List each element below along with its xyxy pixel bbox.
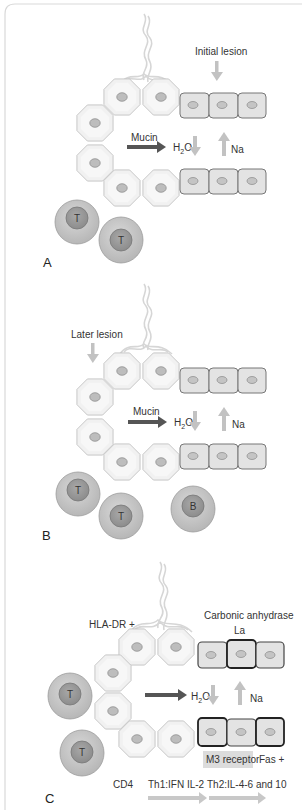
t-lymphocyte: T — [55, 200, 99, 244]
svg-text:T: T — [74, 213, 80, 224]
sjogren-pathogenesis-figure: Initial lesion Mucin H2O Na T — [0, 0, 302, 810]
la-label: La — [234, 625, 246, 636]
lesion-arrow-icon — [211, 61, 223, 81]
cd4-label: CD4 — [113, 779, 133, 790]
mucin-arrow-icon — [128, 416, 167, 428]
duct-cells-bottom — [180, 444, 266, 469]
duct-cells-bottom — [198, 718, 284, 746]
na-up-arrow-icon — [234, 681, 246, 705]
lesion-label: Initial lesion — [195, 46, 247, 57]
na-label: Na — [232, 419, 245, 430]
fas-label: Fas + — [259, 754, 284, 765]
duct-cells-top — [180, 368, 266, 393]
panel-a: Initial lesion Mucin H2O Na T — [43, 14, 266, 270]
lesion-label: Later lesion — [71, 329, 123, 340]
acinar-cell — [143, 79, 179, 115]
svg-text:B: B — [190, 501, 197, 512]
duct-strands-icon — [120, 284, 172, 354]
na-up-arrow-icon — [218, 407, 230, 431]
hla-dr-label: HLA-DR + — [89, 619, 135, 630]
acinar-cell — [95, 655, 131, 691]
acinar-cell — [77, 379, 113, 415]
h2o-label: H2O — [173, 142, 192, 155]
mucin-arrow-icon — [145, 689, 187, 701]
t-lymphocyte: T — [60, 730, 104, 776]
acinar-cell — [77, 419, 113, 455]
duct-strands-icon — [120, 14, 172, 84]
t-lymphocyte: T — [99, 217, 143, 263]
acinar-cell — [104, 444, 140, 480]
th1-label: Th1:IFN IL-2 — [148, 779, 205, 790]
mucin-label: Mucin — [133, 406, 160, 417]
svg-text:T: T — [75, 485, 81, 496]
acinar-cell — [104, 79, 140, 115]
acinar-cell — [104, 170, 140, 206]
panel-label-a: A — [43, 255, 52, 270]
duct-cells-bottom — [180, 169, 266, 194]
acinar-cell — [95, 693, 131, 729]
b-lymphocyte: B — [171, 486, 215, 532]
mucin-label: Mucin — [131, 132, 158, 143]
panel-label-c: C — [45, 791, 54, 806]
t-lymphocyte: T — [99, 493, 143, 539]
acinar-cell — [158, 629, 194, 665]
m3-receptor-label: M3 receptor — [206, 754, 260, 765]
panel-b: Later lesion Mucin H2O Na T T — [42, 284, 266, 543]
t-lymphocyte: T — [56, 472, 100, 516]
panel-label-b: B — [42, 528, 51, 543]
na-up-arrow-icon — [218, 132, 230, 156]
carbonic-anhydrase-label: Carbonic anhydrase — [204, 610, 294, 621]
th-progression-arrow-icon — [148, 792, 266, 804]
acinar-cell — [143, 353, 179, 389]
na-label: Na — [250, 693, 263, 704]
h2o-label: H2O — [191, 691, 210, 704]
lesion-arrow-icon — [87, 343, 99, 363]
duct-strands-icon — [130, 562, 192, 632]
acinar-cell — [77, 145, 113, 181]
na-label: Na — [231, 144, 244, 155]
acinar-cell — [143, 444, 179, 480]
acinar-cell — [143, 170, 179, 206]
duct-cells-top — [180, 93, 266, 118]
th2-label: Th2:IL-4-6 and 10 — [207, 779, 287, 790]
svg-text:T: T — [118, 511, 124, 522]
svg-text:T: T — [79, 747, 85, 758]
acinar-cell — [104, 353, 140, 389]
panel-c: HLA-DR + Carbonic anhydrase La H2O Na M3… — [45, 562, 294, 806]
svg-text:T: T — [67, 689, 73, 700]
duct-cells-top — [198, 640, 284, 668]
acinar-cell — [77, 105, 113, 141]
acinar-cell — [158, 721, 194, 757]
svg-text:T: T — [118, 235, 124, 246]
t-lymphocyte: T — [48, 673, 92, 719]
acinar-cell — [119, 721, 155, 757]
